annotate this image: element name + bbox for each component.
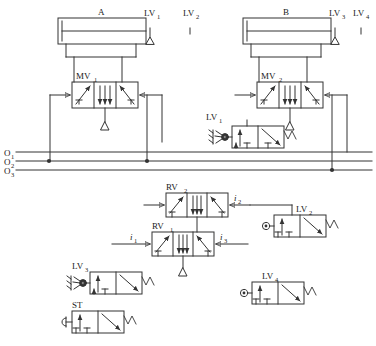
valve-mv2[interactable] bbox=[235, 82, 347, 130]
mv2-sub: 2 bbox=[279, 76, 282, 83]
port-i1-label: i bbox=[130, 232, 133, 242]
cylinder-b bbox=[243, 18, 331, 82]
lv1-label: LV bbox=[206, 112, 218, 122]
valve-lv4[interactable] bbox=[240, 282, 316, 304]
lv2-label: LV bbox=[296, 204, 308, 214]
lv1-top-label: LV bbox=[144, 8, 156, 18]
rv1-label: RV bbox=[152, 221, 164, 231]
cylinder-a bbox=[58, 18, 146, 82]
lv3-label: LV bbox=[72, 261, 84, 271]
lv3-top-sub: 3 bbox=[342, 13, 345, 20]
rv2-sub: 2 bbox=[184, 187, 187, 194]
lv3-sub: 3 bbox=[85, 266, 88, 273]
lv3-trip-flag-icon bbox=[331, 28, 339, 44]
pneumatic-diagram: A B LV 1 LV 2 LV 3 LV 4 MV 1 MV 2 LV 1 O… bbox=[0, 0, 376, 346]
lv4-label: LV bbox=[262, 271, 274, 281]
rv1-sub: 1 bbox=[170, 226, 173, 233]
valve-lv1[interactable] bbox=[209, 120, 296, 148]
supply-lines bbox=[16, 152, 372, 170]
lv2-top-sub: 2 bbox=[196, 13, 199, 20]
lv4-top-label: LV bbox=[353, 8, 365, 18]
port-i1-sub: 1 bbox=[134, 237, 137, 244]
valve-st[interactable] bbox=[62, 311, 136, 333]
valve-mv1[interactable] bbox=[50, 82, 162, 130]
st-label: ST bbox=[72, 300, 83, 310]
port-i2-label: i bbox=[234, 193, 237, 203]
valve-lv3[interactable] bbox=[67, 272, 154, 294]
port-i3-sub: 3 bbox=[224, 237, 227, 244]
supply-o3-label: O bbox=[4, 166, 11, 176]
mv2-wiring bbox=[332, 95, 347, 170]
lv4-top-sub: 4 bbox=[366, 13, 370, 20]
supply-o3-sub: 3 bbox=[11, 171, 14, 178]
supply-o2-sub: 2 bbox=[11, 162, 14, 169]
mv1-sub: 1 bbox=[94, 76, 97, 83]
supply-o1-sub: 1 bbox=[11, 153, 14, 160]
diagram-labels: A B LV 1 LV 2 LV 3 LV 4 MV 1 MV 2 LV 1 O… bbox=[4, 7, 370, 310]
rv2-label: RV bbox=[166, 182, 178, 192]
cylinder-b-label: B bbox=[283, 7, 289, 17]
lv2-top-label: LV bbox=[183, 8, 195, 18]
lv2-sub: 2 bbox=[309, 209, 312, 216]
mv1-wiring bbox=[50, 95, 162, 161]
mv2-label: MV bbox=[261, 71, 276, 81]
lv1-trip-flag-icon bbox=[146, 28, 154, 44]
lv1-top-sub: 1 bbox=[157, 13, 160, 20]
port-i3-label: i bbox=[220, 232, 223, 242]
port-i2-sub: 2 bbox=[238, 198, 241, 205]
lv3-top-label: LV bbox=[329, 8, 341, 18]
cylinder-a-label: A bbox=[98, 7, 105, 17]
mv1-label: MV bbox=[76, 71, 91, 81]
lv1-sub: 1 bbox=[219, 117, 222, 124]
diagram-canvas: A B LV 1 LV 2 LV 3 LV 4 MV 1 MV 2 LV 1 O… bbox=[0, 0, 376, 346]
